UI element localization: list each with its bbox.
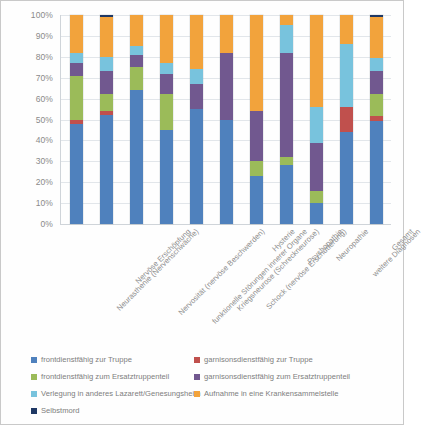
- bar-segment[interactable]: [310, 15, 323, 107]
- legend-swatch: [31, 391, 37, 397]
- bar-segment[interactable]: [130, 46, 143, 54]
- bar-segment[interactable]: [100, 57, 113, 72]
- bar-segment[interactable]: [70, 124, 83, 224]
- stacked-bar[interactable]: [370, 15, 383, 224]
- x-axis-labels: Neurasthenie (Nervenschwäche)Nervöse Ers…: [61, 227, 391, 337]
- stacked-bar[interactable]: [220, 15, 233, 224]
- bar-segment[interactable]: [70, 15, 83, 53]
- bar-segment[interactable]: [190, 69, 203, 84]
- bar-segment[interactable]: [130, 90, 143, 224]
- bar-segment[interactable]: [370, 121, 383, 224]
- bar-segment[interactable]: [280, 25, 293, 52]
- bar-segment[interactable]: [250, 176, 263, 224]
- bar-segment[interactable]: [100, 17, 113, 57]
- bar-segment[interactable]: [310, 107, 323, 143]
- y-axis-tick-label: 70%: [36, 73, 53, 83]
- bar-segment[interactable]: [250, 15, 263, 111]
- bar-segment[interactable]: [220, 53, 233, 120]
- bar-segment[interactable]: [340, 44, 353, 107]
- bar-column[interactable]: [151, 15, 181, 224]
- bar-segment[interactable]: [250, 111, 263, 161]
- x-axis-tick-label: weitere Diagnosen: [371, 227, 422, 278]
- bar-segment[interactable]: [190, 109, 203, 224]
- stacked-bar[interactable]: [340, 15, 353, 224]
- legend-label: frontdienstfähig zum Ersatztruppenteil: [41, 372, 169, 381]
- y-axis-tick-label: 90%: [36, 31, 53, 41]
- legend-swatch: [194, 391, 200, 397]
- y-axis-tick-label: 40%: [36, 135, 53, 145]
- bar-segment[interactable]: [70, 63, 83, 76]
- legend-label: Aufnahme in eine Krankensammelstelle: [204, 389, 339, 398]
- y-axis-tick-label: 0%: [41, 219, 54, 229]
- bar-column[interactable]: [91, 15, 121, 224]
- bar-segment[interactable]: [160, 63, 173, 73]
- bar-segment[interactable]: [250, 161, 263, 176]
- legend-swatch: [194, 357, 200, 363]
- bar-segment[interactable]: [70, 53, 83, 63]
- bar-column[interactable]: [211, 15, 241, 224]
- bar-segment[interactable]: [130, 67, 143, 90]
- bar-segment[interactable]: [280, 53, 293, 158]
- bar-segment[interactable]: [190, 84, 203, 109]
- bar-segment[interactable]: [310, 191, 323, 204]
- stacked-bar[interactable]: [100, 15, 113, 224]
- bar-segment[interactable]: [310, 203, 323, 224]
- legend-item[interactable]: garnisonsdienstfähig zum Ersatztruppente…: [194, 368, 391, 385]
- bar-segment[interactable]: [340, 107, 353, 132]
- bar-segment[interactable]: [190, 15, 203, 69]
- bar-segment[interactable]: [280, 15, 293, 25]
- bar-column[interactable]: [241, 15, 271, 224]
- bar-segment[interactable]: [130, 55, 143, 68]
- legend-item[interactable]: frontdienstfähig zum Ersatztruppenteil: [31, 368, 194, 385]
- bar-segment[interactable]: [100, 71, 113, 94]
- bar-column[interactable]: [121, 15, 151, 224]
- bar-segment[interactable]: [220, 120, 233, 225]
- stacked-bar[interactable]: [70, 15, 83, 224]
- legend-item[interactable]: garnisonsdienstfähig zur Truppe: [194, 351, 391, 368]
- bar-column[interactable]: [61, 15, 91, 224]
- y-axis-tick-label: 80%: [36, 52, 53, 62]
- stacked-bar[interactable]: [280, 15, 293, 224]
- bar-segment[interactable]: [100, 94, 113, 111]
- bar-segment[interactable]: [160, 74, 173, 95]
- bar-segment[interactable]: [310, 143, 323, 191]
- bar-segment[interactable]: [370, 71, 383, 94]
- bar-segment[interactable]: [280, 165, 293, 224]
- bar-segment[interactable]: [100, 115, 113, 224]
- stacked-bar[interactable]: [250, 15, 263, 224]
- bar-segment[interactable]: [160, 130, 173, 224]
- legend-swatch: [31, 408, 37, 414]
- bar-column[interactable]: [181, 15, 211, 224]
- bar-segment[interactable]: [340, 132, 353, 224]
- bar-segment[interactable]: [340, 15, 353, 44]
- bar-column[interactable]: [301, 15, 331, 224]
- stacked-bar[interactable]: [130, 15, 143, 224]
- y-axis-tick-label: 10%: [36, 198, 53, 208]
- bar-segment[interactable]: [370, 17, 383, 58]
- bar-segment[interactable]: [280, 157, 293, 165]
- legend-swatch: [194, 374, 200, 380]
- legend-swatch: [31, 374, 37, 380]
- legend-item[interactable]: Verlegung in anderes Lazarett/Genesungsh…: [31, 385, 194, 402]
- bar-segment[interactable]: [370, 58, 383, 70]
- legend-label: Verlegung in anderes Lazarett/Genesungsh…: [41, 389, 201, 398]
- bar-segment[interactable]: [160, 94, 173, 130]
- stacked-bar[interactable]: [310, 15, 323, 224]
- legend-item[interactable]: Selbstmord: [31, 402, 194, 419]
- stacked-bar[interactable]: [160, 15, 173, 224]
- plot-area: [61, 15, 391, 224]
- bar-column[interactable]: [331, 15, 361, 224]
- legend-item[interactable]: Aufnahme in eine Krankensammelstelle: [194, 385, 391, 402]
- bar-segment[interactable]: [370, 94, 383, 117]
- bar-segment[interactable]: [70, 76, 83, 120]
- bar-column[interactable]: [361, 15, 391, 224]
- bar-segment[interactable]: [130, 15, 143, 46]
- x-axis-tick-label: Nervöse Erschöpfung: [134, 227, 193, 286]
- bar-segment[interactable]: [220, 15, 233, 53]
- stacked-bar[interactable]: [190, 15, 203, 224]
- bar-column[interactable]: [271, 15, 301, 224]
- legend-item[interactable]: frontdienstfähig zur Truppe: [31, 351, 194, 368]
- bar-segment[interactable]: [160, 15, 173, 63]
- legend-label: frontdienstfähig zur Truppe: [41, 355, 132, 364]
